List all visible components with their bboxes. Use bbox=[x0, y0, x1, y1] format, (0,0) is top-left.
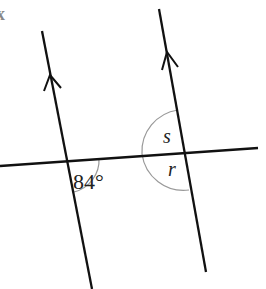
angle-s-arc bbox=[142, 110, 178, 154]
angle-r-arc bbox=[142, 154, 189, 190]
corner-label: x bbox=[0, 4, 5, 24]
diagram-canvas: x 84° s r bbox=[0, 0, 266, 289]
angle-r-label: r bbox=[168, 158, 176, 180]
transversal-line bbox=[0, 148, 258, 166]
angle-s-label: s bbox=[163, 125, 171, 147]
angle-84-label: 84° bbox=[73, 169, 104, 194]
